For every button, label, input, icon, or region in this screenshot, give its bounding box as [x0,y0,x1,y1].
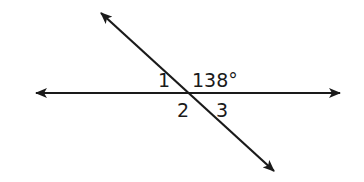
angle-1-label: 1 [158,69,170,91]
angle-diagram: 1 138° 2 3 [0,0,364,182]
angle-2-label: 2 [177,99,189,121]
angle-138-label: 138° [192,69,238,91]
angle-3-label: 3 [216,99,228,121]
